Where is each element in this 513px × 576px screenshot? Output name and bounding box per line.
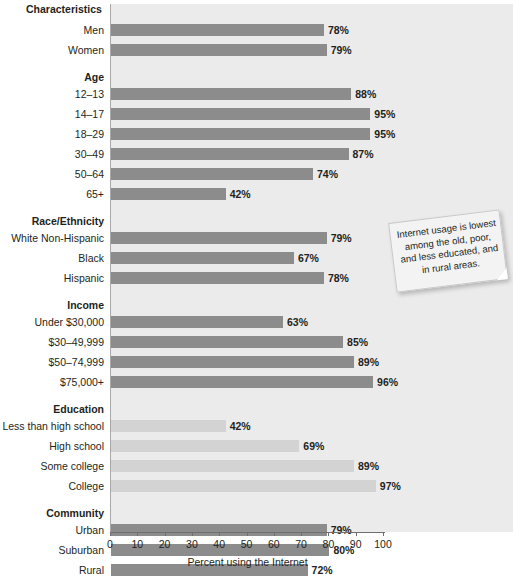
row-label-65: 65+ — [0, 186, 104, 202]
group-label-race-ethnicity: Race/Ethnicity — [0, 213, 104, 229]
callout-note: Internet usage is lowest among the old, … — [388, 209, 508, 292]
bar-hispanic — [111, 272, 324, 284]
x-tick-label-100: 100 — [374, 538, 392, 550]
row-label-75-000: $75,000+ — [0, 374, 104, 390]
bar-12-13 — [111, 88, 351, 100]
row-label-under-30-000: Under $30,000 — [0, 314, 104, 330]
row-label-men: Men — [0, 22, 104, 38]
bar-50-64 — [111, 168, 313, 180]
x-tick-label-60: 60 — [268, 538, 280, 550]
bar-50-74-999 — [111, 356, 354, 368]
bar-value-50-64: 74% — [317, 168, 338, 180]
x-axis-title: Percent using the Internet — [110, 556, 385, 568]
row-label-12-13: 12–13 — [0, 86, 104, 102]
x-tick-10 — [137, 532, 138, 536]
bar-value-18-29: 95% — [374, 128, 395, 140]
row-label-rural: Rural — [0, 562, 104, 576]
row-label-women: Women — [0, 42, 104, 58]
bar-less-than-high-school — [111, 420, 226, 432]
row-label-less-than-high-school: Less than high school — [0, 418, 104, 434]
group-label-education: Education — [0, 401, 104, 417]
x-tick-label-40: 40 — [213, 538, 225, 550]
bar-men — [111, 24, 324, 36]
x-tick-60 — [274, 532, 275, 536]
bar-white-non-hispanic — [111, 232, 327, 244]
bar-value-men: 78% — [328, 24, 349, 36]
bar-value-some-college: 89% — [358, 460, 379, 472]
bar-college — [111, 480, 376, 492]
row-label-50-64: 50–64 — [0, 166, 104, 182]
x-tick-20 — [165, 532, 166, 536]
x-tick-label-20: 20 — [159, 538, 171, 550]
callout-note-text: Internet usage is lowest among the old, … — [396, 217, 501, 279]
row-label-high-school: High school — [0, 438, 104, 454]
x-tick-40 — [219, 532, 220, 536]
bar-30-49-999 — [111, 336, 343, 348]
x-tick-90 — [356, 532, 357, 536]
bar-some-college — [111, 460, 354, 472]
bar-value-12-13: 88% — [355, 88, 376, 100]
row-label-30-49: 30–49 — [0, 146, 104, 162]
group-label-age: Age — [0, 69, 104, 85]
row-label-suburban: Suburban — [0, 542, 104, 558]
bar-value-women: 79% — [331, 44, 352, 56]
row-label-14-17: 14–17 — [0, 106, 104, 122]
row-label-30-49-999: $30–49,999 — [0, 334, 104, 350]
x-tick-label-90: 90 — [350, 538, 362, 550]
row-label-urban: Urban — [0, 522, 104, 538]
bar-high-school — [111, 440, 299, 452]
x-tick-50 — [247, 532, 248, 536]
row-label-hispanic: Hispanic — [0, 270, 104, 286]
x-tick-100 — [383, 532, 384, 536]
bar-value-50-74-999: 89% — [358, 356, 379, 368]
x-tick-30 — [192, 532, 193, 536]
bar-value-college: 97% — [380, 480, 401, 492]
row-label-some-college: Some college — [0, 458, 104, 474]
bar-value-30-49-999: 85% — [347, 336, 368, 348]
bar-value-less-than-high-school: 42% — [230, 420, 251, 432]
bar-value-65: 42% — [230, 188, 251, 200]
row-label-50-74-999: $50–74,999 — [0, 354, 104, 370]
group-label-community: Community — [0, 505, 104, 521]
bar-value-high-school: 69% — [303, 440, 324, 452]
bar-18-29 — [111, 128, 370, 140]
x-tick-80 — [328, 532, 329, 536]
bar-value-hispanic: 78% — [328, 272, 349, 284]
column-header: Characteristics — [26, 2, 102, 16]
bar-30-49 — [111, 148, 349, 160]
bar-black — [111, 252, 294, 264]
bar-75-000 — [111, 376, 373, 388]
x-tick-70 — [301, 532, 302, 536]
x-axis-line — [110, 532, 385, 533]
bar-value-white-non-hispanic: 79% — [331, 232, 352, 244]
bar-women — [111, 44, 327, 56]
internet-usage-bar-chart: Characteristics Men78%Women79%Age12–1388… — [0, 0, 513, 576]
bar-value-under-30-000: 63% — [287, 316, 308, 328]
bar-14-17 — [111, 108, 370, 120]
row-label-white-non-hispanic: White Non-Hispanic — [0, 230, 104, 246]
x-tick-label-30: 30 — [186, 538, 198, 550]
bar-value-75-000: 96% — [377, 376, 398, 388]
bar-value-30-49: 87% — [353, 148, 374, 160]
bar-65 — [111, 188, 226, 200]
x-tick-label-50: 50 — [241, 538, 253, 550]
bar-under-30-000 — [111, 316, 283, 328]
y-axis-line — [110, 4, 111, 532]
bar-value-urban: 79% — [331, 524, 352, 536]
x-tick-label-80: 80 — [323, 538, 335, 550]
group-label-income: Income — [0, 297, 104, 313]
x-tick-label-10: 10 — [131, 538, 143, 550]
bar-value-black: 67% — [298, 252, 319, 264]
page-fold-icon — [496, 268, 508, 280]
x-tick-0 — [110, 532, 111, 536]
row-label-black: Black — [0, 250, 104, 266]
bar-value-14-17: 95% — [374, 108, 395, 120]
row-label-college: College — [0, 478, 104, 494]
x-tick-label-70: 70 — [295, 538, 307, 550]
x-tick-label-0: 0 — [107, 538, 113, 550]
row-label-18-29: 18–29 — [0, 126, 104, 142]
